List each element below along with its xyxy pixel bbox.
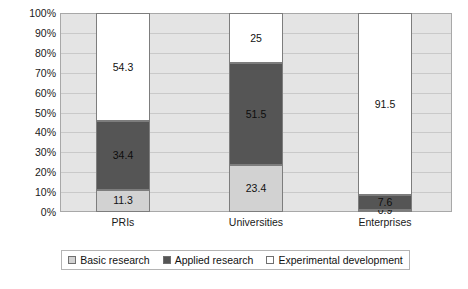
bar-value-label: 34.4	[113, 150, 133, 161]
stacked-bar-chart: 100%90%80%70%60%50%40%30%20%10%0% 11.334…	[0, 0, 468, 289]
y-axis-tick-label: 30%	[0, 147, 56, 158]
y-axis-tick-label: 20%	[0, 167, 56, 178]
bar-value-label: 25	[250, 33, 262, 44]
bars-layer: 11.334.454.323.451.5250.97.691.5	[60, 13, 452, 212]
legend-label: Applied research	[175, 254, 254, 266]
bar-value-label: 91.5	[375, 99, 395, 110]
y-axis-tick-label: 50%	[0, 107, 56, 118]
legend-item[interactable]: Basic research	[68, 254, 149, 266]
bar-segment[interactable]: 11.3	[96, 190, 150, 212]
x-axis-tick-label: PRIs	[63, 216, 183, 228]
bar-value-label: 51.5	[246, 109, 266, 120]
bar-stack: 11.334.454.3	[96, 13, 150, 212]
legend-label: Experimental development	[278, 254, 402, 266]
y-axis: 100%90%80%70%60%50%40%30%20%10%0%	[0, 13, 56, 212]
bar-segment[interactable]: 34.4	[96, 121, 150, 189]
bar-segment[interactable]: 91.5	[358, 13, 412, 195]
bar-group: 11.334.454.3	[96, 13, 150, 212]
y-axis-tick-label: 90%	[0, 27, 56, 38]
x-axis: PRIsUniversitiesEnterprises	[60, 216, 452, 232]
bar-stack: 0.97.691.5	[358, 13, 412, 212]
legend-item[interactable]: Experimental development	[266, 254, 402, 266]
y-axis-tick-label: 100%	[0, 8, 56, 19]
y-axis-tick-label: 40%	[0, 127, 56, 138]
y-axis-tick-label: 70%	[0, 67, 56, 78]
legend-item[interactable]: Applied research	[163, 254, 254, 266]
y-axis-tick-label: 80%	[0, 47, 56, 58]
bar-value-label: 11.3	[113, 195, 133, 206]
y-axis-tick-label: 60%	[0, 87, 56, 98]
chart-legend: Basic researchApplied researchExperiment…	[61, 250, 410, 270]
bar-group: 23.451.525	[229, 13, 283, 212]
legend-swatch-icon	[163, 256, 171, 264]
bar-value-label: 54.3	[113, 62, 133, 73]
bar-value-label: 7.6	[378, 197, 393, 208]
bar-stack: 23.451.525	[229, 13, 283, 212]
legend-swatch-icon	[68, 256, 76, 264]
bar-group: 0.97.691.5	[358, 13, 412, 212]
legend-swatch-icon	[266, 256, 274, 264]
bar-segment[interactable]: 25	[229, 13, 283, 63]
bar-segment[interactable]: 54.3	[96, 13, 150, 121]
bar-segment[interactable]: 51.5	[229, 63, 283, 165]
bar-value-label: 23.4	[246, 183, 266, 194]
bar-segment[interactable]: 23.4	[229, 165, 283, 212]
x-axis-tick-label: Enterprises	[325, 216, 445, 228]
y-axis-tick-label: 10%	[0, 187, 56, 198]
bar-segment[interactable]: 7.6	[358, 195, 412, 210]
legend-label: Basic research	[80, 254, 149, 266]
y-axis-tick-label: 0%	[0, 207, 56, 218]
x-axis-tick-label: Universities	[196, 216, 316, 228]
